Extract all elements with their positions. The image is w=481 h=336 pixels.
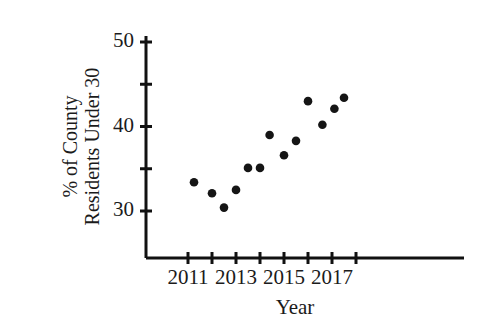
- data-point-0: [190, 178, 199, 187]
- data-point-5: [256, 164, 265, 173]
- data-point-7: [280, 151, 289, 160]
- x-tick-label: 2017: [299, 265, 365, 290]
- data-point-4: [244, 164, 253, 173]
- data-point-8: [292, 137, 301, 146]
- chart-figure: % of County Residents Under 30 Year 3040…: [0, 0, 481, 336]
- y-axis-label-line2: Residents Under 30: [81, 37, 104, 257]
- data-point-1: [208, 189, 217, 198]
- y-tick-label: 40: [90, 113, 134, 138]
- y-tick-label: 50: [90, 28, 134, 53]
- data-point-6: [265, 131, 274, 140]
- data-point-2: [220, 203, 229, 212]
- data-point-10: [318, 121, 327, 130]
- x-axis-label: Year: [235, 295, 355, 320]
- y-tick-label: 30: [90, 197, 134, 222]
- y-axis-label-line1: % of County: [59, 37, 82, 257]
- data-point-11: [330, 104, 339, 113]
- data-point-12: [340, 93, 349, 102]
- data-point-9: [304, 97, 313, 106]
- data-point-3: [232, 186, 241, 195]
